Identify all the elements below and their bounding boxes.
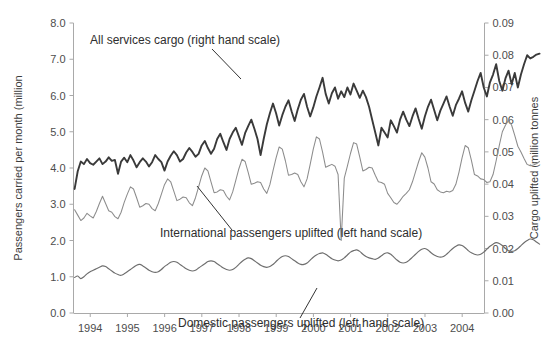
right-tick-label: 0.08 xyxy=(493,49,514,61)
right-tick-label: 0.00 xyxy=(493,307,514,319)
x-tick-label: 1994 xyxy=(78,322,102,334)
right-tick-label: 0.05 xyxy=(493,146,514,158)
x-tick-label: 1995 xyxy=(115,322,139,334)
left-tick-label: 7.0 xyxy=(50,53,65,65)
right-tick-label: 0.02 xyxy=(493,243,514,255)
right-tick-label: 0.03 xyxy=(493,210,514,222)
annotation-international-label: International passengers uplifted (left … xyxy=(160,226,422,240)
annotation-cargo-label: All services cargo (right hand scale) xyxy=(90,33,280,47)
chart-background xyxy=(0,0,555,359)
left-tick-label: 0.0 xyxy=(50,307,65,319)
left-tick-label: 6.0 xyxy=(50,90,65,102)
annotation-domestic-label: Domestic passengers uplifted (left hand … xyxy=(178,316,424,330)
right-tick-label: 0.09 xyxy=(493,17,514,29)
chart-container: 0.01.02.03.04.05.06.07.08.0 0.000.010.02… xyxy=(0,0,555,359)
left-tick-label: 2.0 xyxy=(50,235,65,247)
right-axis-title: Cargo uplifted (million tonnes xyxy=(528,96,540,239)
right-tick-label: 0.01 xyxy=(493,275,514,287)
left-tick-label: 4.0 xyxy=(50,162,65,174)
left-tick-label: 3.0 xyxy=(50,198,65,210)
x-tick-label: 2004 xyxy=(450,322,474,334)
left-tick-label: 5.0 xyxy=(50,126,65,138)
line-chart: 0.01.02.03.04.05.06.07.08.0 0.000.010.02… xyxy=(0,0,555,359)
left-tick-label: 8.0 xyxy=(50,17,65,29)
left-tick-label: 1.0 xyxy=(50,271,65,283)
left-axis-title: Passengers carried per month (million xyxy=(12,75,24,260)
x-tick-label: 1996 xyxy=(152,322,176,334)
right-tick-label: 0.04 xyxy=(493,178,514,190)
